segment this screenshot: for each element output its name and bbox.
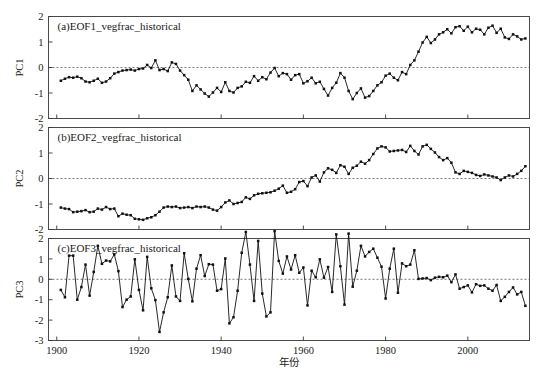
data-point: [220, 206, 223, 209]
data-point: [282, 72, 285, 75]
data-point: [475, 27, 478, 30]
data-point: [179, 207, 182, 210]
data-point: [203, 275, 206, 278]
data-point: [277, 75, 280, 78]
data-point: [146, 64, 149, 66]
data-point: [425, 36, 428, 39]
data-point: [224, 81, 227, 84]
x-tick-label: 1920: [128, 345, 149, 356]
data-point: [195, 84, 198, 87]
data-point: [109, 208, 112, 211]
y-tick-label-3: -3: [35, 335, 44, 346]
data-point: [232, 91, 235, 94]
data-point: [327, 94, 330, 97]
data-point: [327, 167, 330, 170]
data-point: [92, 271, 95, 274]
data-point: [454, 273, 457, 276]
data-point: [282, 272, 285, 275]
data-point: [388, 72, 391, 75]
x-tick-label: 1940: [211, 345, 232, 356]
data-point: [105, 206, 108, 209]
data-point: [512, 175, 515, 178]
data-point: [97, 245, 100, 248]
data-point: [508, 38, 511, 41]
data-point: [413, 249, 416, 252]
data-point: [129, 214, 132, 217]
data-point: [286, 73, 289, 76]
data-point: [134, 218, 137, 221]
data-point: [154, 299, 157, 302]
data-point: [384, 297, 387, 300]
data-point: [125, 69, 128, 72]
data-point: [117, 71, 120, 74]
data-point: [175, 63, 178, 66]
data-point: [360, 87, 363, 90]
data-point: [253, 75, 256, 78]
data-point: [158, 331, 161, 334]
data-point: [257, 80, 260, 83]
data-point: [179, 69, 182, 72]
data-point: [446, 28, 449, 31]
data-point: [508, 174, 511, 177]
data-point: [97, 207, 100, 210]
data-point: [154, 214, 157, 217]
data-point: [364, 96, 367, 99]
data-point: [520, 38, 523, 41]
data-point: [487, 287, 490, 290]
y-tick-label-1: 1: [38, 37, 43, 48]
data-point: [356, 92, 359, 95]
data-point: [249, 263, 252, 266]
data-point: [282, 184, 285, 187]
data-point: [158, 210, 161, 213]
y-axis-title-1: PC1: [14, 58, 25, 76]
data-point: [240, 201, 243, 204]
data-point: [60, 206, 63, 209]
data-point: [512, 286, 515, 289]
data-point: [232, 316, 235, 319]
data-point: [467, 25, 470, 28]
data-point: [121, 306, 124, 309]
y-tick-label-2: 1: [38, 148, 43, 159]
data-point: [462, 170, 465, 173]
data-point: [249, 198, 252, 201]
data-point: [68, 208, 71, 211]
data-point: [310, 176, 313, 179]
data-point: [286, 255, 289, 258]
data-point: [125, 213, 128, 216]
y-axis-title-2: PC2: [14, 169, 25, 187]
data-point: [425, 277, 428, 280]
data-point: [290, 191, 293, 194]
data-point: [253, 300, 256, 303]
data-point: [462, 30, 465, 32]
data-point: [265, 192, 268, 195]
data-point: [240, 252, 243, 255]
data-point: [413, 150, 416, 153]
data-point: [504, 36, 507, 39]
data-point: [175, 295, 178, 298]
data-point: [475, 174, 478, 177]
data-point: [150, 287, 153, 290]
data-point: [265, 78, 268, 81]
data-point: [347, 173, 350, 176]
data-point: [142, 309, 145, 312]
data-point: [376, 147, 379, 150]
data-point: [409, 145, 412, 148]
data-point: [372, 247, 375, 250]
data-point: [499, 27, 502, 30]
data-point: [343, 303, 346, 306]
data-point: [467, 284, 470, 287]
data-point: [134, 258, 137, 261]
data-point: [199, 254, 202, 256]
data-point: [236, 202, 239, 205]
data-point: [212, 91, 215, 94]
data-point: [199, 88, 202, 91]
data-point: [314, 82, 317, 85]
data-point: [121, 69, 124, 72]
data-point: [360, 245, 363, 248]
data-point: [92, 80, 95, 83]
data-point: [84, 80, 87, 83]
data-point: [401, 149, 404, 152]
series-markers-pc2: [60, 144, 527, 221]
data-point: [84, 209, 87, 212]
data-point: [372, 153, 375, 156]
